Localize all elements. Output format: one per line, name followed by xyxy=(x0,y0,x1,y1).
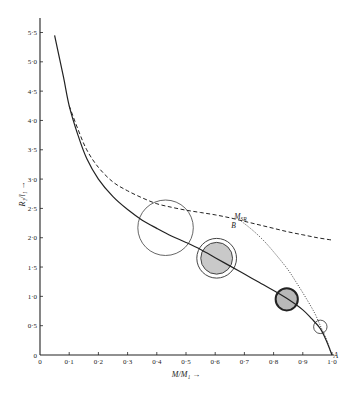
y-tick-label: 3·0 xyxy=(28,176,38,184)
y-tick-label: 4·5 xyxy=(28,88,38,96)
x-tick-label: 0·8 xyxy=(269,358,279,366)
axes: 00·10·20·30·40·50·60·70·80·91·000·51·01·… xyxy=(28,18,338,366)
x-tick-label: 0·4 xyxy=(152,358,162,366)
y-tick-label: 2·0 xyxy=(28,234,38,242)
chart: 00·10·20·30·40·50·60·70·80·91·000·51·01·… xyxy=(0,0,357,394)
x-tick-label: 0·1 xyxy=(65,358,75,366)
dark-rim-circle xyxy=(276,288,298,310)
y-tick-label: 5·0 xyxy=(28,58,38,66)
large-open-circle xyxy=(138,200,193,255)
label-a: A xyxy=(332,351,338,360)
y-tick-label: 5·5 xyxy=(28,29,38,37)
x-tick-label: 0·2 xyxy=(94,358,104,366)
x-tick-label: 0 xyxy=(38,358,42,366)
y-tick-label: 2·5 xyxy=(28,205,38,213)
y-tick-label: 1·0 xyxy=(28,293,38,301)
x-tick-label: 0·7 xyxy=(240,358,250,366)
y-tick-label: 0 xyxy=(34,352,38,360)
annotations: MSRBA xyxy=(231,212,338,360)
y-tick-label: 1·5 xyxy=(28,264,38,272)
series-dashed-line xyxy=(69,106,332,240)
label-b: B xyxy=(231,221,236,230)
y-axis-label: R₁/l₁ → xyxy=(18,182,27,208)
y-tick-label: 3·5 xyxy=(28,146,38,154)
y-tick-label: 0·5 xyxy=(28,322,38,330)
x-tick-label: 0·3 xyxy=(123,358,133,366)
x-tick-label: 0·6 xyxy=(211,358,221,366)
x-tick-label: 0·5 xyxy=(181,358,191,366)
y-tick-label: 4·0 xyxy=(28,117,38,125)
x-axis-label: M/M₁ → xyxy=(171,370,200,379)
x-tick-label: 0·9 xyxy=(298,358,308,366)
